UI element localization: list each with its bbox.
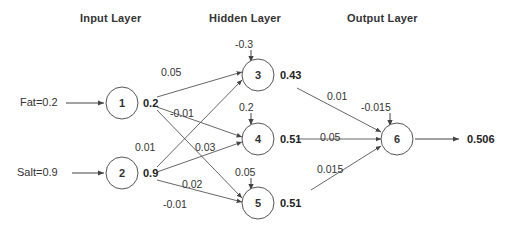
node-label-3: 3 <box>250 69 266 81</box>
activation-value-2: 0.9 <box>143 167 158 179</box>
final-output-value: 0.506 <box>467 133 495 145</box>
bias-label-5: 0.05 <box>235 166 255 178</box>
bias-label-6: -0.015 <box>361 101 391 113</box>
weight-label-1-3: 0.05 <box>161 66 181 78</box>
node-label-6: 6 <box>389 133 405 145</box>
layer-title-input: Input Layer <box>80 12 142 24</box>
weight-label-2-4: 0.03 <box>195 141 215 153</box>
weight-label-1-5: 0.02 <box>182 178 202 190</box>
weight-label-4-6: 0.05 <box>320 131 340 143</box>
weight-label-2-5: -0.01 <box>163 198 187 210</box>
weight-label-3-6: 0.01 <box>327 90 347 102</box>
node-label-2: 2 <box>114 167 130 179</box>
layer-title-output: Output Layer <box>347 12 418 24</box>
activation-value-4: 0.51 <box>280 133 301 145</box>
weight-label-2-3: 0.01 <box>135 141 155 153</box>
node-label-4: 4 <box>250 133 266 145</box>
bias-label-3: -0.3 <box>235 38 253 50</box>
activation-value-5: 0.51 <box>280 197 301 209</box>
bias-label-4: 0.2 <box>239 101 254 113</box>
node-label-1: 1 <box>114 97 130 109</box>
activation-value-3: 0.43 <box>280 69 301 81</box>
weight-label-5-6: 0.015 <box>317 163 343 175</box>
activation-value-1: 0.2 <box>143 97 158 109</box>
node-label-5: 5 <box>250 197 266 209</box>
input-label-fat: Fat=0.2 <box>20 96 58 108</box>
input-label-salt: Salt=0.9 <box>17 166 58 178</box>
weight-label-1-4: -0.01 <box>170 107 194 119</box>
layer-title-hidden: Hidden Layer <box>209 12 281 24</box>
neural-network-diagram: Input Layer Hidden Layer Output Layer Fa… <box>0 0 507 235</box>
